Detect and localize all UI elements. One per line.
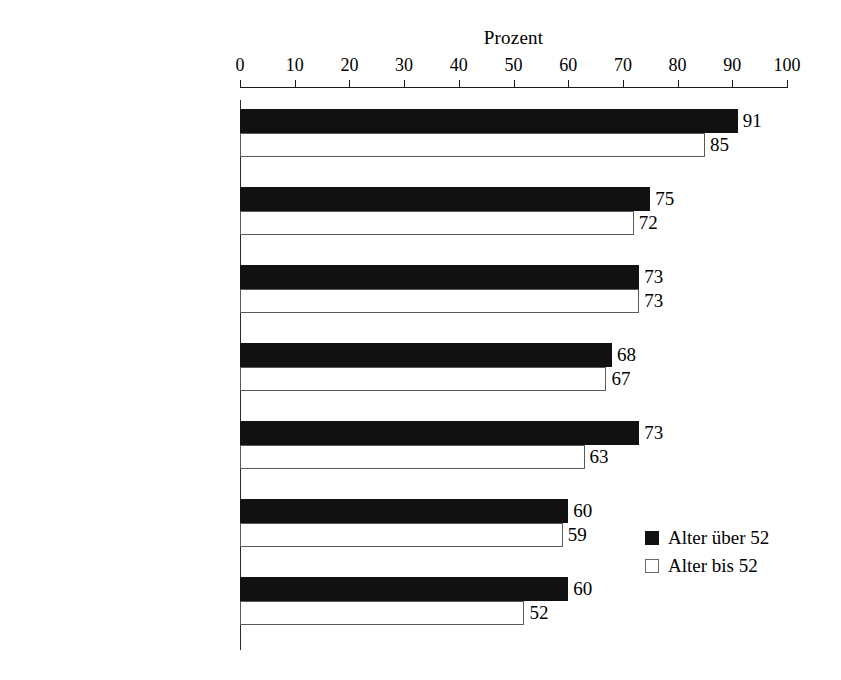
bar-row: 75 (240, 187, 787, 211)
bar[interactable] (240, 343, 612, 367)
category-group: Sicherheit erhöhen7572 (240, 187, 787, 235)
category-group: Spaß am Wochenende6052 (240, 577, 787, 625)
bar-value-label: 73 (639, 291, 663, 311)
bar-row: 63 (240, 445, 787, 469)
bar-value-label: 63 (585, 447, 609, 467)
category-group: mehr Komfort im Haushalt7373 (240, 265, 787, 313)
x-tick-mark (568, 80, 569, 88)
bar-row: 73 (240, 289, 787, 313)
bar[interactable] (240, 421, 639, 445)
x-tick-mark (787, 80, 788, 88)
bar[interactable] (240, 187, 650, 211)
x-tick-mark (240, 80, 241, 88)
bar-value-label: 73 (639, 267, 663, 287)
bar-row: 73 (240, 421, 787, 445)
bar-row: 68 (240, 343, 787, 367)
bar-value-label: 59 (563, 525, 587, 545)
x-axis-tick-labels: 0102030405060708090100 (240, 55, 787, 77)
bar-chart: Prozent 0102030405060708090100 Erleichte… (0, 0, 841, 680)
x-tick-label: 0 (236, 55, 245, 75)
bar-value-label: 75 (650, 189, 674, 209)
x-tick-label: 20 (340, 55, 358, 75)
bar-value-label: 85 (705, 135, 729, 155)
bar-value-label: 67 (606, 369, 630, 389)
bar-value-label: 73 (639, 423, 663, 443)
x-tick-label: 70 (614, 55, 632, 75)
legend-swatch (645, 531, 659, 545)
category-group: Komm./Information erweitern7363 (240, 421, 787, 469)
bar-value-label: 91 (738, 111, 762, 131)
bar[interactable] (240, 367, 606, 391)
x-tick-label: 10 (286, 55, 304, 75)
x-tick-label: 100 (774, 55, 801, 75)
bar[interactable] (240, 133, 705, 157)
x-tick-mark (514, 80, 515, 88)
bar[interactable] (240, 289, 639, 313)
x-tick-label: 90 (723, 55, 741, 75)
x-tick-label: 80 (669, 55, 687, 75)
bar[interactable] (240, 523, 563, 547)
x-tick-mark (732, 80, 733, 88)
bar-row: 91 (240, 109, 787, 133)
x-tick-label: 60 (559, 55, 577, 75)
bar[interactable] (240, 109, 738, 133)
legend-label: Alter bis 52 (668, 556, 758, 576)
bar[interactable] (240, 499, 568, 523)
bar[interactable] (240, 445, 585, 469)
bar-value-label: 60 (568, 501, 592, 521)
chart-title: Prozent (240, 27, 787, 49)
bar-value-label: 68 (612, 345, 636, 365)
x-tick-mark (678, 80, 679, 88)
x-tick-label: 30 (395, 55, 413, 75)
bar-row: 52 (240, 601, 787, 625)
x-tick-mark (404, 80, 405, 88)
chart-legend: Alter über 52Alter bis 52 (645, 524, 835, 580)
bar[interactable] (240, 211, 634, 235)
bar-value-label: 60 (568, 579, 592, 599)
x-tick-label: 50 (505, 55, 523, 75)
bar-row: 67 (240, 367, 787, 391)
bar-row: 60 (240, 577, 787, 601)
x-tick-label: 40 (450, 55, 468, 75)
bar-value-label: 52 (524, 603, 548, 623)
bar[interactable] (240, 577, 568, 601)
bar-row: 72 (240, 211, 787, 235)
bar[interactable] (240, 601, 524, 625)
legend-item[interactable]: Alter bis 52 (645, 552, 835, 580)
x-tick-mark (295, 80, 296, 88)
category-group: dient als Gedächtnisstütze6867 (240, 343, 787, 391)
bar-row: 85 (240, 133, 787, 157)
category-group: Erleichterungen im Alltag9185 (240, 109, 787, 157)
legend-swatch (645, 559, 659, 573)
x-tick-mark (459, 80, 460, 88)
bar[interactable] (240, 265, 639, 289)
legend-item[interactable]: Alter über 52 (645, 524, 835, 552)
x-tick-mark (623, 80, 624, 88)
x-tick-mark (349, 80, 350, 88)
legend-label: Alter über 52 (668, 528, 769, 548)
bar-row: 60 (240, 499, 787, 523)
bar-value-label: 72 (634, 213, 658, 233)
bar-row: 73 (240, 265, 787, 289)
